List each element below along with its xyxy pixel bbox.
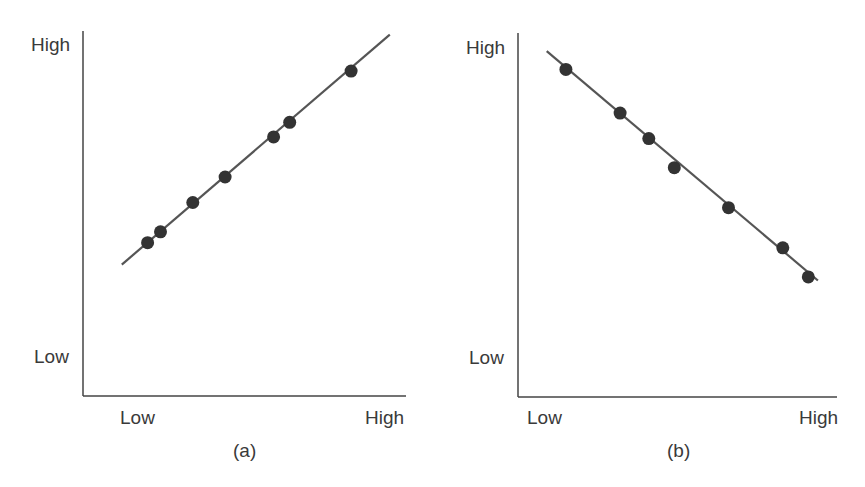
data-point [642, 132, 655, 145]
data-point [559, 63, 572, 76]
x-high-label: High [365, 407, 404, 428]
data-point [219, 171, 232, 184]
chart-canvas: High Low Low High (a) High Low Low High … [0, 0, 865, 487]
panel-caption: (a) [233, 440, 256, 461]
data-point [141, 236, 154, 249]
panel-b-negative-correlation: High Low Low High (b) [466, 33, 838, 461]
data-point [186, 196, 199, 209]
panel-a-positive-correlation: High Low Low High (a) [31, 31, 406, 461]
y-low-label: Low [469, 347, 504, 368]
data-point [802, 270, 815, 283]
x-high-label: High [799, 407, 838, 428]
y-high-label: High [466, 37, 505, 58]
data-point [614, 107, 627, 120]
data-point [668, 161, 681, 174]
data-point [776, 241, 789, 254]
data-point [267, 130, 280, 143]
data-point [154, 225, 167, 238]
panel-caption: (b) [667, 440, 690, 461]
x-low-label: Low [120, 407, 155, 428]
data-point [722, 201, 735, 214]
data-point [283, 116, 296, 129]
data-point [345, 65, 358, 78]
y-high-label: High [31, 34, 70, 55]
data-points [559, 63, 814, 284]
x-low-label: Low [527, 407, 562, 428]
y-low-label: Low [34, 346, 69, 367]
